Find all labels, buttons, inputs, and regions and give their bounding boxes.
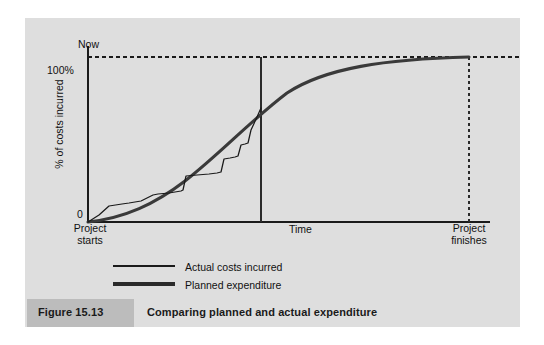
y-axis-tick-100: 100%	[47, 64, 74, 76]
project-starts-line1: Project	[74, 222, 107, 234]
y-axis-title: % of costs incurred	[53, 78, 65, 170]
figure-caption-text: Comparing planned and actual expenditure	[147, 306, 377, 318]
now-label: Now	[78, 38, 99, 50]
series-actual-costs-incurred	[88, 108, 261, 222]
x-axis-title: Time	[289, 223, 312, 235]
figure-caption-bar: Figure 15.13 Comparing planned and actua…	[25, 299, 520, 327]
y-axis-tick-0: 0	[77, 208, 83, 220]
legend-item-actual-costs: Actual costs incurred	[185, 261, 282, 273]
legend-item-planned-expenditure: Planned expenditure	[185, 279, 281, 291]
x-axis-label-project-finishes: Project finishes	[438, 223, 500, 246]
series-planned-expenditure	[88, 57, 469, 222]
project-finishes-line1: Project	[453, 222, 486, 234]
x-axis-label-project-starts: Project starts	[59, 223, 121, 246]
figure-panel: 100% 0 % of costs incurred Now Time Proj…	[25, 18, 520, 327]
project-finishes-line2: finishes	[451, 234, 487, 246]
project-starts-line2: starts	[77, 234, 103, 246]
figure-number: Figure 15.13	[38, 306, 103, 318]
